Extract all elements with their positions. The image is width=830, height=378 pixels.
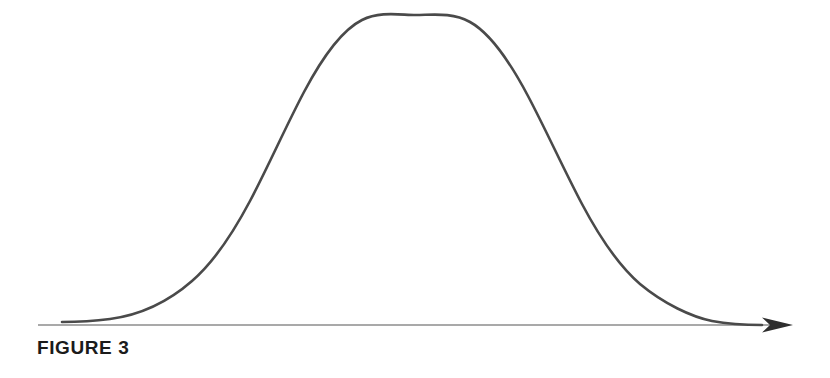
- figure-container: FIGURE 3: [0, 0, 830, 378]
- figure-canvas: [0, 0, 830, 378]
- canvas-background: [0, 0, 830, 378]
- figure-caption: FIGURE 3: [37, 337, 129, 359]
